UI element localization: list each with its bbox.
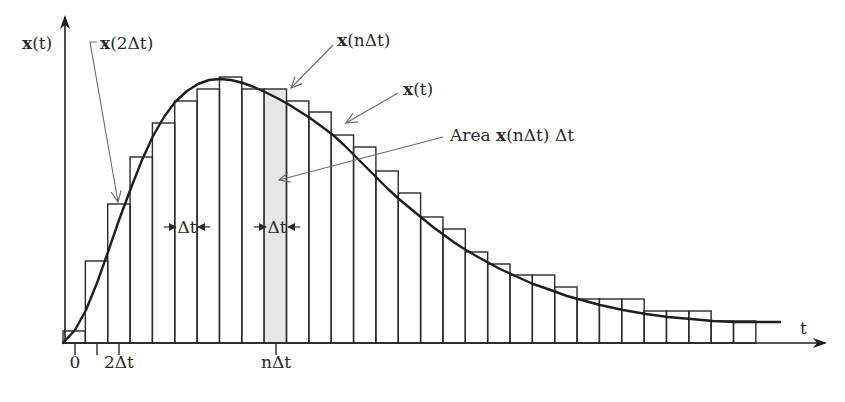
pulse-bar — [331, 135, 353, 343]
delta-t-label: Δt — [177, 217, 196, 237]
tick-label: 0 — [70, 352, 81, 372]
xt-curve-label: x(t) — [403, 79, 433, 99]
pulse-bar — [219, 77, 241, 343]
pulse-bar — [242, 89, 264, 343]
pulse-bar — [108, 204, 130, 343]
pulse-bar — [666, 311, 688, 343]
pulse-bar — [354, 147, 376, 343]
x2dt-leader-line — [90, 42, 118, 202]
pulse-bar — [197, 89, 219, 343]
tick-label: nΔt — [261, 352, 291, 372]
pulse-bar — [309, 112, 331, 343]
tick-label: 2Δt — [104, 352, 134, 372]
delta-t-label: Δt — [267, 217, 286, 237]
highlighted-pulse-bar — [264, 89, 286, 343]
xndt-leader-arrow — [291, 45, 333, 88]
signal-curve — [63, 79, 780, 343]
delta-t-markers: ΔtΔt — [164, 217, 300, 237]
pulse-bar — [734, 321, 756, 343]
pulse-bars — [63, 77, 756, 343]
pulse-bar — [711, 321, 733, 343]
riemann-staircase-diagram: 02ΔtnΔt x(t) t x(2Δt) x(nΔt) x(t) Area x… — [0, 0, 845, 402]
area-leader-arrow — [279, 137, 443, 180]
pulse-bar — [152, 123, 174, 343]
xt-leader-arrow — [346, 93, 398, 123]
x-axis-label: t — [800, 318, 807, 338]
pulse-bar — [510, 275, 532, 343]
x2dt-label: x(2Δt) — [100, 33, 153, 53]
pulse-bar — [465, 252, 487, 343]
pulse-bar — [488, 264, 510, 343]
x-axis-ticks: 02ΔtnΔt — [70, 343, 292, 372]
pulse-bar — [421, 217, 443, 343]
pulse-bar — [287, 101, 309, 343]
pulse-bar — [622, 299, 644, 343]
pulse-bar — [689, 311, 711, 343]
pulse-bar — [577, 299, 599, 343]
diagram-canvas: 02ΔtnΔt x(t) t x(2Δt) x(nΔt) x(t) Area x… — [0, 0, 845, 402]
y-axis-label: x(t) — [22, 33, 52, 53]
area-label: Area x(nΔt) Δt — [449, 125, 574, 145]
pulse-bar — [63, 331, 85, 343]
xndt-label: x(nΔt) — [337, 30, 390, 50]
